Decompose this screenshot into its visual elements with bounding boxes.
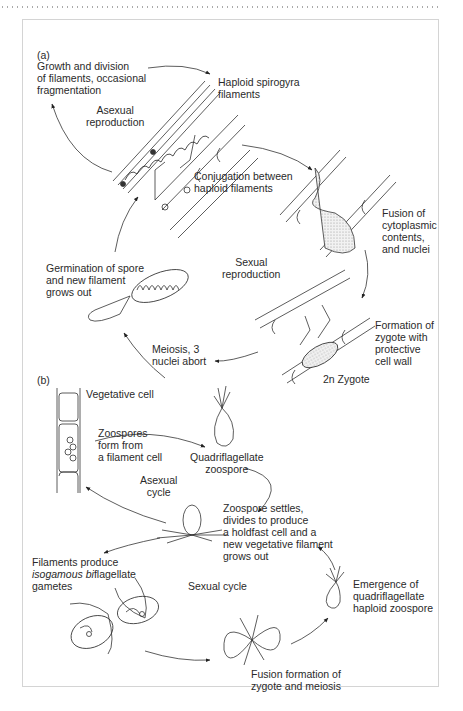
filaments-produce-gametes-label: Filaments produceisogamous biflagellateg… <box>32 556 136 592</box>
haploid-filaments-label: Haploid spirogyra filaments <box>218 76 300 100</box>
vegetative-cell-label: Vegetative cell <box>86 388 154 400</box>
arrow-icon <box>215 352 258 361</box>
arrow-icon <box>362 250 368 298</box>
meiosis-label: Meiosis, 3 nuclei abort <box>152 343 206 367</box>
sexual-cycle-label: Sexual cycle <box>188 580 247 592</box>
fusion-meiosis-label: Fusion formation of zygote and meiosis <box>251 668 341 692</box>
settled-zoospore-icon <box>157 505 227 543</box>
arrow-icon <box>291 618 328 644</box>
fusion-cytoplasmic-label: Fusion of cytoplasmic contents, and nucl… <box>382 207 437 255</box>
germination-label: Germination of spore and new filament gr… <box>46 262 144 298</box>
zoospore-settles-label: Zoospore settles, divides to produce a h… <box>223 502 333 562</box>
arrow-icon <box>148 66 210 74</box>
arrow-icon <box>145 651 210 660</box>
emergence-label: Emergence of quadriflagellate haploid zo… <box>353 578 433 614</box>
quadriflagellate-zoospore-label: Quadriflagellate zoospore <box>190 451 264 475</box>
vegetative-filament-icon <box>57 388 80 493</box>
emerging-zoospore-icon <box>326 566 344 608</box>
zygote-formation-label: Formation of zygote with protective cell… <box>375 319 434 367</box>
growth-division-label: Growth and division of filaments, occasi… <box>37 60 146 96</box>
fused-zygote-icon <box>224 615 280 665</box>
sexual-reproduction-label: Sexual reproduction <box>222 256 280 280</box>
quadriflagellate-zoospore-icon <box>214 386 234 446</box>
conjugation-label: Conjugation between haploid filaments <box>194 170 293 194</box>
panel-b-label: (b) <box>37 374 50 386</box>
arrow-icon <box>242 145 312 170</box>
arrow-icon <box>115 197 138 252</box>
fusion-filament-icon <box>280 150 396 257</box>
zygote-label: 2n Zygote <box>323 373 370 385</box>
asexual-cycle-label: Asexual cycle <box>140 474 177 498</box>
zygote-filament-icon <box>255 270 375 384</box>
asexual-reproduction-label: Asexual reproduction <box>86 104 144 128</box>
arrow-icon <box>104 538 160 553</box>
zoospores-form-label: Zoospores form from a filament cell <box>98 427 162 463</box>
